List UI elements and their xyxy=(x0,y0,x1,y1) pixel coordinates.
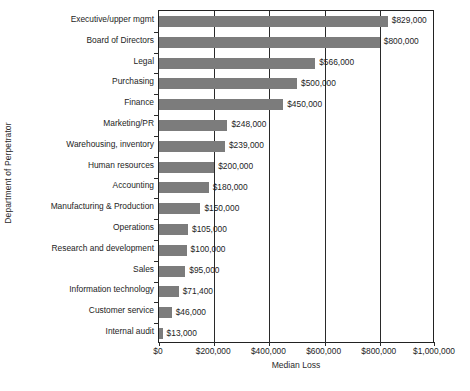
bar xyxy=(159,120,227,131)
bar-value-label: $71,400 xyxy=(183,286,213,297)
y-axis-tick xyxy=(154,53,159,54)
bar xyxy=(159,141,225,152)
x-axis-tick-label: $400,000 xyxy=(251,346,286,356)
bar xyxy=(159,37,380,48)
bar xyxy=(159,328,163,339)
x-axis-title: Median Loss xyxy=(158,360,434,370)
bar-value-label: $500,000 xyxy=(301,78,336,89)
bar-value-label: $180,000 xyxy=(213,182,248,193)
bar-value-label: $13,000 xyxy=(167,328,197,339)
category-label: Research and development xyxy=(52,243,154,253)
bar xyxy=(159,16,388,27)
bar xyxy=(159,224,188,235)
x-axis-tick-label: $800,000 xyxy=(361,346,396,356)
category-axis-labels: Executive/upper mgmtBoard of DirectorsLe… xyxy=(16,10,157,343)
bar xyxy=(159,182,209,193)
y-axis-tick xyxy=(154,136,159,137)
y-axis-tick xyxy=(154,73,159,74)
x-axis-tick-label: $200,000 xyxy=(196,346,231,356)
category-label: Accounting xyxy=(113,180,154,190)
category-label: Customer service xyxy=(89,305,154,315)
bar-value-label: $46,000 xyxy=(176,307,206,318)
category-label: Sales xyxy=(133,264,154,274)
category-label: Marketing/PR xyxy=(103,118,154,128)
bar-value-label: $95,000 xyxy=(189,265,219,276)
bar-value-label: $800,000 xyxy=(384,36,419,47)
plot-area: $829,000$800,000$566,000$500,000$450,000… xyxy=(158,10,434,343)
y-axis-tick xyxy=(154,178,159,179)
bar xyxy=(159,162,214,173)
y-axis-title: Department of Perpetrator xyxy=(0,0,16,345)
y-axis-title-text: Department of Perpetrator xyxy=(3,122,13,223)
category-label: Internal audit xyxy=(106,326,154,336)
bar-value-label: $239,000 xyxy=(229,140,264,151)
category-label: Purchasing xyxy=(112,76,154,86)
bar-value-label: $248,000 xyxy=(231,119,266,130)
category-label: Legal xyxy=(134,56,155,66)
bar xyxy=(159,58,315,69)
category-label: Executive/upper mgmt xyxy=(71,14,154,24)
bar-value-label: $150,000 xyxy=(204,203,239,214)
bar-value-label: $200,000 xyxy=(218,161,253,172)
y-axis-tick xyxy=(154,219,159,220)
category-label: Warehousing, inventory xyxy=(66,139,154,149)
gridline xyxy=(380,11,381,342)
y-axis-tick xyxy=(154,32,159,33)
x-axis-tick-label: $0 xyxy=(153,346,162,356)
y-axis-tick xyxy=(154,282,159,283)
bar xyxy=(159,78,297,89)
y-axis-tick xyxy=(154,261,159,262)
x-axis-tick-label: $1,000,000 xyxy=(413,346,455,356)
bar xyxy=(159,307,172,318)
x-axis-tick-labels: $0$200,000$400,000$600,000$800,000$1,000… xyxy=(0,346,470,358)
y-axis-tick xyxy=(154,115,159,116)
bar xyxy=(159,99,283,110)
category-label: Information technology xyxy=(69,284,154,294)
bar xyxy=(159,203,200,214)
y-axis-tick xyxy=(154,94,159,95)
bar xyxy=(159,266,185,277)
bar-value-label: $105,000 xyxy=(192,224,227,235)
y-axis-tick xyxy=(154,157,159,158)
bar-value-label: $829,000 xyxy=(392,15,427,26)
bar xyxy=(159,286,179,297)
x-axis-tick-label: $600,000 xyxy=(306,346,341,356)
category-label: Human resources xyxy=(88,160,154,170)
bar-chart-figure: Department of Perpetrator Executive/uppe… xyxy=(0,0,470,391)
y-axis-tick xyxy=(154,198,159,199)
category-label: Operations xyxy=(113,222,154,232)
bar-value-label: $566,000 xyxy=(319,57,354,68)
bar xyxy=(159,245,187,256)
category-label: Manufacturing & Production xyxy=(51,201,154,211)
y-axis-tick xyxy=(154,302,159,303)
y-axis-tick xyxy=(154,240,159,241)
category-label: Board of Directors xyxy=(87,35,155,45)
bar-value-label: $100,000 xyxy=(191,244,226,255)
category-label: Finance xyxy=(124,97,154,107)
y-axis-tick xyxy=(154,323,159,324)
bar-value-label: $450,000 xyxy=(287,99,322,110)
